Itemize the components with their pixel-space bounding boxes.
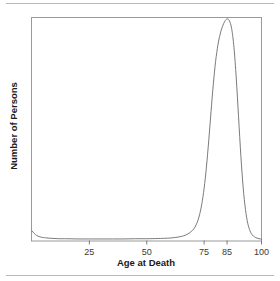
- x-axis-title: Age at Death: [117, 257, 175, 268]
- line-chart: 25507585100 Age at Death Number of Perso…: [0, 0, 280, 281]
- figure-container: 25507585100 Age at Death Number of Perso…: [0, 0, 280, 281]
- x-tick-label: 25: [84, 247, 94, 257]
- x-tick-label: 75: [199, 247, 209, 257]
- x-tick-label: 85: [222, 247, 232, 257]
- plot-frame: [32, 18, 262, 242]
- x-tick-label: 50: [142, 247, 152, 257]
- mortality-curve-group: [32, 19, 262, 239]
- distribution-curve: [32, 19, 262, 239]
- y-axis-title: Number of Persons: [8, 82, 19, 170]
- x-axis-ticks: 25507585100: [84, 241, 269, 257]
- x-tick-label: 100: [254, 247, 269, 257]
